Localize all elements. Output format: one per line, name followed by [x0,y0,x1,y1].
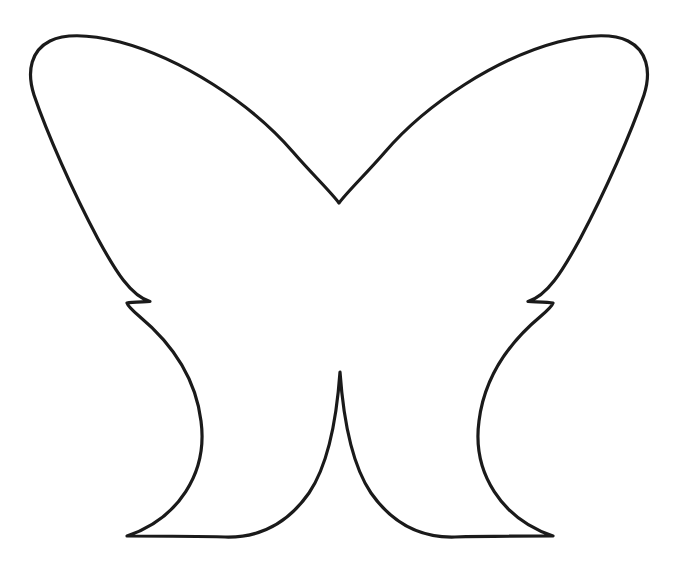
butterfly-artboard [0,0,673,571]
page-root: Butterfly Outline [0,0,673,571]
